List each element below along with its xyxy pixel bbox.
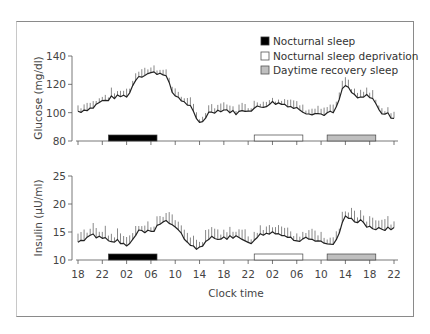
x-tick-label: 02 [120, 268, 133, 280]
glucose-trace [78, 72, 394, 123]
x-tick-label: 02 [266, 268, 279, 280]
y-tick-label: 25 [53, 170, 66, 182]
x-axis-title: Clock time [208, 287, 264, 299]
y-tick-label: 10 [53, 254, 66, 266]
sleep-bar [108, 135, 157, 141]
x-tick-label: 18 [71, 268, 84, 280]
legend: Nocturnal sleep Nocturnal sleep deprivat… [261, 35, 418, 76]
y-tick-label: 15 [53, 226, 66, 238]
x-tick-label: 22 [387, 268, 400, 280]
insulin-panel: 101520251822020610141822020610141822 [53, 170, 401, 280]
glucose-axis-title: Glucose (mg/dl) [32, 56, 44, 139]
insulin-variability-spikes [78, 208, 394, 250]
legend-swatch-nocturnal-sleep [261, 37, 269, 45]
y-tick-label: 140 [46, 50, 66, 62]
legend-swatch-sleep-deprivation [261, 52, 269, 60]
x-tick-label: 14 [193, 268, 207, 280]
x-tick-label: 18 [217, 268, 230, 280]
sleep-bar [254, 135, 303, 141]
x-tick-label: 14 [339, 268, 353, 280]
insulin-axis-title: Insulin (µU/ml) [32, 180, 44, 257]
x-tick-label: 10 [169, 268, 182, 280]
y-tick-label: 20 [53, 198, 66, 210]
x-tick-label: 06 [290, 268, 304, 280]
x-tick-label: 18 [363, 268, 376, 280]
sleep-bar [327, 254, 376, 260]
x-tick-label: 10 [314, 268, 327, 280]
sleep-bar [254, 254, 303, 260]
y-tick-label: 100 [46, 107, 66, 119]
sleep-bar [327, 135, 376, 141]
sleep-bar [108, 254, 157, 260]
glucose-insulin-chart: 80100120140 1015202518220206101418220206… [0, 0, 430, 334]
x-tick-label: 22 [241, 268, 254, 280]
x-tick-label: 22 [96, 268, 109, 280]
legend-label-sleep-deprivation: Nocturnal sleep deprivation [273, 50, 418, 62]
x-tick-label: 06 [144, 268, 158, 280]
y-tick-label: 80 [53, 135, 66, 147]
legend-swatch-recovery-sleep [261, 66, 269, 74]
legend-label-nocturnal-sleep: Nocturnal sleep [273, 35, 356, 47]
legend-label-recovery-sleep: Daytime recovery sleep [273, 64, 398, 76]
y-tick-label: 120 [46, 78, 66, 90]
